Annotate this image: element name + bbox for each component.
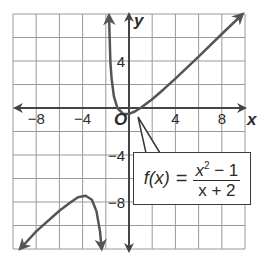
numerator-rest: − 1 [209,160,238,179]
x-tick-label: −8 [28,110,45,127]
y-tick-label: −4 [108,147,125,164]
numerator: x2 − 1 [193,156,240,182]
callout-pointer [138,117,160,153]
denominator: x + 2 [198,181,235,201]
x-tick-label: 4 [171,110,179,127]
y-tick-label: 4 [117,53,125,70]
fraction: x2 − 1 x + 2 [193,156,240,202]
numerator-var: x [195,160,204,179]
x-tick-label: 8 [218,110,226,127]
equals-sign: = [176,167,188,190]
x-tick-label: −4 [74,110,91,127]
y-axis-label: y [133,11,145,30]
curve-left-branch [20,196,102,249]
function-label-box: f(x) = x2 − 1 x + 2 [133,152,251,205]
origin-label: O [114,110,127,129]
x-axis-label: x [246,110,258,129]
y-tick-label: −8 [108,194,125,211]
function-name: f(x) [144,168,170,189]
axes [15,14,245,251]
coordinate-graph: −8−4484−4−8xyO [0,0,274,257]
